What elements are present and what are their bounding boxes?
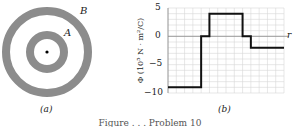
chart-grid [168, 8, 284, 93]
ytick-neg5: −5 [149, 58, 162, 68]
ytick-neg10: −10 [144, 87, 163, 97]
ytick-0: 0 [155, 30, 161, 40]
ytick-5: 5 [155, 2, 161, 12]
figure-caption: Figure . . . Problem 10 [80, 118, 220, 127]
caption-b: (b) [218, 104, 231, 114]
y-axis-label: Φ (10⁵ N · m²/C) [136, 1, 145, 101]
x-axis-label: r [287, 30, 291, 40]
